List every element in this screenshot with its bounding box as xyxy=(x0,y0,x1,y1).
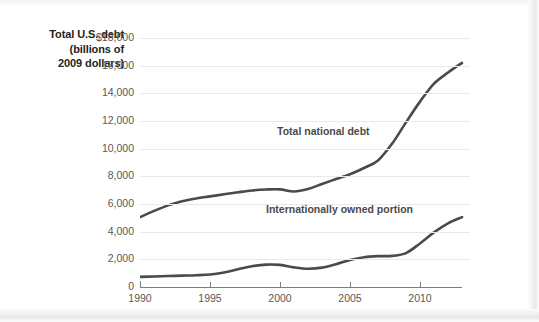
y-axis-tick-label: 2,000 xyxy=(74,252,134,264)
gridline xyxy=(140,259,470,260)
gridline xyxy=(140,176,470,177)
frame-edge-right xyxy=(528,0,539,322)
y-axis-tick-label: 16,000 xyxy=(74,59,134,71)
series-line-1 xyxy=(140,63,462,217)
x-axis-tick xyxy=(140,282,141,287)
x-axis-line xyxy=(140,287,462,288)
gridline xyxy=(140,121,470,122)
y-axis-tick-label: 8,000 xyxy=(74,169,134,181)
y-axis-tick-label: 12,000 xyxy=(74,114,134,126)
figure-root: Total U.S. debt (billions of 2009 dollar… xyxy=(0,0,539,322)
x-axis-tick xyxy=(280,282,281,287)
gridline xyxy=(140,149,470,150)
y-axis-tick-label: 14,000 xyxy=(74,86,134,98)
y-axis-tick-labels: 02,0004,0006,0008,00010,00012,00014,0001… xyxy=(72,30,134,295)
x-axis-tick xyxy=(350,282,351,287)
series-layer xyxy=(140,30,470,295)
gridline xyxy=(140,232,470,233)
y-axis-tick-label: 6,000 xyxy=(74,197,134,209)
series-label-total-national-debt: Total national debt xyxy=(277,125,370,137)
series-label-internationally-owned: Internationally owned portion xyxy=(266,203,413,215)
x-axis-tick xyxy=(420,282,421,287)
x-axis-tick-label: 2010 xyxy=(408,292,431,304)
y-axis-tick-label: $18,000 xyxy=(74,31,134,43)
series-line-2 xyxy=(140,217,462,277)
x-axis-tick-label: 2005 xyxy=(338,292,361,304)
x-axis-tick-label: 1995 xyxy=(198,292,221,304)
plot-area xyxy=(140,30,470,295)
x-axis-tick xyxy=(210,282,211,287)
x-axis-tick-label: 2000 xyxy=(268,292,291,304)
gridline xyxy=(140,38,470,39)
y-axis-tick-label: 10,000 xyxy=(74,142,134,154)
y-axis-tick-label: 0 xyxy=(74,280,134,292)
y-axis-tick-label: 4,000 xyxy=(74,225,134,237)
gridline xyxy=(140,93,470,94)
frame-edge-bottom xyxy=(0,309,539,322)
x-axis-tick-label: 1990 xyxy=(128,292,151,304)
gridline xyxy=(140,66,470,67)
